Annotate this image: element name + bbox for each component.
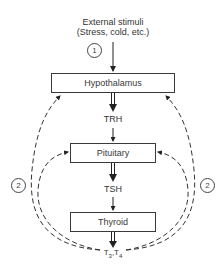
thyroid-to-t3t4-arrow — [109, 232, 117, 248]
tsh-label: TSH — [93, 184, 133, 194]
thyroid-node: Thyroid — [70, 212, 156, 232]
feedback-right-pituitary — [126, 152, 188, 250]
pathway-marker-1: 1 — [87, 43, 102, 58]
connector-layer — [0, 0, 224, 276]
thyroid-label: Thyroid — [98, 217, 128, 227]
pituitary-label: Pituitary — [97, 148, 130, 158]
t3-t4-label: T3,T4 — [93, 248, 133, 261]
feedback-left-pituitary — [38, 152, 100, 250]
hpt-axis-diagram: External stimuli (Stress, cold, etc.) 1 … — [0, 0, 224, 276]
hypothalamus-label: Hypothalamus — [84, 78, 142, 88]
trh-label: TRH — [93, 114, 133, 124]
stimulus-label-line2: (Stress, cold, etc.) — [63, 27, 163, 37]
stimulus-label-line1: External stimuli — [63, 17, 163, 27]
feedback-marker-left: 2 — [11, 178, 26, 193]
pituitary-to-tsh-arrow — [109, 163, 117, 182]
hypothalamus-to-trh-arrow — [109, 93, 117, 112]
hypothalamus-node: Hypothalamus — [51, 73, 175, 93]
t4-subscript: 4 — [119, 253, 122, 259]
feedback-marker-right: 2 — [200, 178, 215, 193]
pituitary-node: Pituitary — [70, 143, 156, 163]
